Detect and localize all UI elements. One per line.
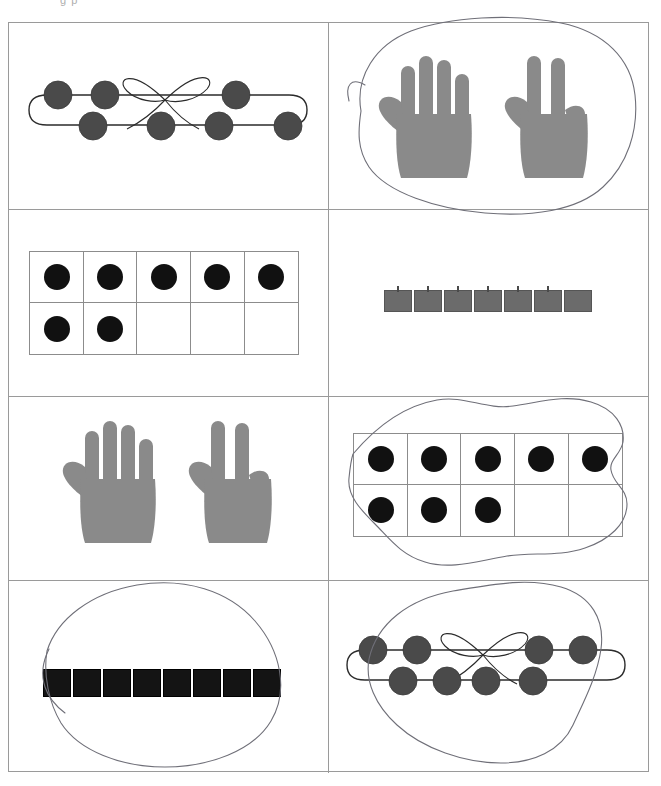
cube bbox=[414, 290, 442, 312]
ten-frame-cell bbox=[408, 485, 462, 536]
bead-string-eight-graphic bbox=[341, 628, 631, 714]
cell-bead-string-seven[interactable] bbox=[9, 23, 329, 210]
ten-frame-dot bbox=[421, 446, 447, 472]
ten-frame-dot bbox=[368, 497, 394, 523]
cell-content bbox=[9, 210, 328, 396]
ten-frame-cell bbox=[461, 434, 515, 485]
hand-five-fingers-icon bbox=[55, 413, 171, 553]
cube-train-eight-black-graphic bbox=[43, 669, 281, 697]
ten-frame-cell-empty bbox=[191, 303, 245, 354]
cell-content bbox=[329, 210, 649, 396]
cell-ten-frame-eight[interactable] bbox=[329, 397, 649, 581]
cell-content bbox=[9, 581, 328, 773]
cell-content bbox=[9, 23, 328, 209]
cropped-header-text: g p bbox=[60, 0, 78, 6]
ten-frame-dot bbox=[528, 446, 554, 472]
cube bbox=[444, 290, 472, 312]
bead bbox=[79, 112, 107, 140]
ten-frame-cell-empty bbox=[137, 303, 191, 354]
bead bbox=[525, 636, 553, 664]
bead bbox=[147, 112, 175, 140]
ten-frame-dot bbox=[97, 316, 123, 342]
cell-ten-frame-seven[interactable] bbox=[9, 210, 329, 397]
hands-graphic bbox=[55, 413, 281, 553]
cube bbox=[43, 669, 71, 697]
ten-frame-dot bbox=[582, 446, 608, 472]
ten-frame-cell bbox=[461, 485, 515, 536]
ten-frame-cell-empty bbox=[515, 485, 569, 536]
cell-bead-string-eight[interactable] bbox=[329, 581, 649, 773]
hand-five-fingers-icon bbox=[371, 48, 487, 188]
cube bbox=[133, 669, 161, 697]
bead-string-svg bbox=[23, 73, 313, 159]
ten-frame-cell bbox=[354, 434, 408, 485]
ten-frame-cell bbox=[30, 303, 84, 354]
cell-hands-five-and-two-repeat[interactable] bbox=[9, 397, 329, 581]
cube bbox=[474, 290, 502, 312]
ten-frame-cell-empty bbox=[245, 303, 299, 354]
cell-content bbox=[329, 397, 649, 580]
ten-frame-eight-graphic bbox=[353, 433, 623, 537]
bead bbox=[205, 112, 233, 140]
ten-frame-cell bbox=[515, 434, 569, 485]
ten-frame-dot bbox=[44, 316, 70, 342]
cube-train-seven-gray-graphic bbox=[384, 290, 592, 312]
cube bbox=[163, 669, 191, 697]
ten-frame-cell bbox=[137, 252, 191, 303]
ten-frame-dot bbox=[44, 264, 70, 290]
bead-string-seven-graphic bbox=[23, 73, 313, 159]
bead bbox=[519, 667, 547, 695]
ten-frame-cell bbox=[408, 434, 462, 485]
cell-cube-train-seven-gray[interactable] bbox=[329, 210, 649, 397]
ten-frame-cell bbox=[84, 252, 138, 303]
cube bbox=[223, 669, 251, 697]
bead-string-svg bbox=[341, 628, 631, 714]
hand-two-fingers-icon bbox=[493, 48, 597, 188]
cell-cube-train-eight-black[interactable] bbox=[9, 581, 329, 773]
ten-frame-cell bbox=[191, 252, 245, 303]
ten-frame-cell bbox=[569, 434, 623, 485]
ten-frame-dot bbox=[475, 497, 501, 523]
worksheet-page: g p bbox=[0, 0, 661, 786]
ten-frame-cell bbox=[354, 485, 408, 536]
cube bbox=[73, 669, 101, 697]
cell-content bbox=[9, 397, 328, 580]
bead bbox=[44, 81, 72, 109]
worksheet-grid bbox=[9, 23, 648, 771]
ten-frame-seven-graphic bbox=[29, 251, 299, 355]
ten-frame-cell bbox=[245, 252, 299, 303]
cube bbox=[384, 290, 412, 312]
bead bbox=[359, 636, 387, 664]
ten-frame-cell bbox=[84, 303, 138, 354]
bead bbox=[569, 636, 597, 664]
ten-frame-dot bbox=[368, 446, 394, 472]
ten-frame-dot bbox=[475, 446, 501, 472]
bead bbox=[274, 112, 302, 140]
cube bbox=[253, 669, 281, 697]
ten-frame-cell bbox=[30, 252, 84, 303]
ten-frame-dot bbox=[258, 264, 284, 290]
cube bbox=[193, 669, 221, 697]
hand-two-fingers-icon bbox=[177, 413, 281, 553]
ten-frame-dot bbox=[97, 264, 123, 290]
worksheet-grid-frame bbox=[8, 22, 649, 772]
cube bbox=[564, 290, 592, 312]
cell-content bbox=[329, 581, 649, 773]
cell-content bbox=[329, 23, 649, 209]
cube bbox=[534, 290, 562, 312]
bead bbox=[472, 667, 500, 695]
cell-hands-five-and-two[interactable] bbox=[329, 23, 649, 210]
hands-graphic bbox=[371, 48, 597, 188]
cube bbox=[103, 669, 131, 697]
ten-frame-dot bbox=[151, 264, 177, 290]
bead bbox=[91, 81, 119, 109]
ten-frame-cell-empty bbox=[569, 485, 623, 536]
cube bbox=[504, 290, 532, 312]
bead bbox=[222, 81, 250, 109]
ten-frame-dot bbox=[204, 264, 230, 290]
bead bbox=[433, 667, 461, 695]
bead bbox=[403, 636, 431, 664]
bead bbox=[389, 667, 417, 695]
ten-frame-dot bbox=[421, 497, 447, 523]
